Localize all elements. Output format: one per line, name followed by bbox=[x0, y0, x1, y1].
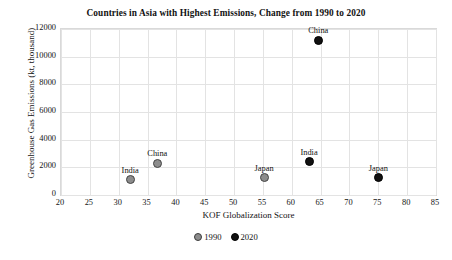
y-tick-label: 10000 bbox=[10, 52, 56, 60]
data-point[interactable] bbox=[126, 175, 135, 184]
gridline-vertical bbox=[61, 29, 62, 195]
x-tick-label: 70 bbox=[333, 198, 363, 208]
x-axis-title: KOF Globalization Score bbox=[60, 210, 437, 220]
x-tick-label: 65 bbox=[305, 198, 335, 208]
data-point[interactable] bbox=[153, 159, 162, 168]
data-point[interactable] bbox=[374, 173, 383, 182]
gridline-horizontal bbox=[61, 29, 436, 30]
gridline-horizontal bbox=[61, 57, 436, 58]
y-tick-label: 6000 bbox=[10, 107, 56, 115]
y-tick-label: 12000 bbox=[10, 24, 56, 32]
x-tick-label: 60 bbox=[276, 198, 306, 208]
legend-label: 2020 bbox=[241, 232, 258, 242]
legend-marker-icon bbox=[194, 233, 202, 241]
data-point[interactable] bbox=[260, 173, 269, 182]
gridline-vertical bbox=[205, 29, 206, 195]
x-tick-label: 30 bbox=[103, 198, 133, 208]
x-tick-label: 80 bbox=[391, 198, 421, 208]
legend-label: 1990 bbox=[204, 232, 221, 242]
gridline-vertical bbox=[176, 29, 177, 195]
gridline-horizontal bbox=[61, 195, 436, 196]
x-tick-label: 20 bbox=[45, 198, 75, 208]
chart-title: Countries in Asia with Highest Emissions… bbox=[0, 8, 452, 18]
data-point-label: China bbox=[288, 26, 348, 35]
y-axis-ticks: 020004000600080001000012000 bbox=[0, 28, 56, 196]
x-tick-label: 75 bbox=[362, 198, 392, 208]
y-tick-label: 2000 bbox=[10, 162, 56, 170]
x-tick-label: 55 bbox=[247, 198, 277, 208]
data-point[interactable] bbox=[314, 36, 323, 45]
x-tick-label: 35 bbox=[132, 198, 162, 208]
gridline-vertical bbox=[321, 29, 322, 195]
x-tick-label: 50 bbox=[218, 198, 248, 208]
legend-item-1990[interactable]: 1990 bbox=[194, 232, 221, 242]
plot-area: IndiaChinaJapanIndiaChinaJapan bbox=[60, 28, 437, 196]
x-tick-label: 40 bbox=[160, 198, 190, 208]
data-point-label: China bbox=[127, 149, 187, 158]
gridline-horizontal bbox=[61, 140, 436, 141]
gridline-vertical bbox=[436, 29, 437, 195]
scatter-chart: Countries in Asia with Highest Emissions… bbox=[0, 0, 452, 260]
chart-legend: 19902020 bbox=[0, 232, 452, 242]
data-point[interactable] bbox=[305, 157, 314, 166]
gridline-horizontal bbox=[61, 112, 436, 113]
gridline-horizontal bbox=[61, 84, 436, 85]
data-point-label: India bbox=[279, 148, 339, 157]
gridline-vertical bbox=[90, 29, 91, 195]
legend-item-2020[interactable]: 2020 bbox=[231, 232, 258, 242]
x-tick-label: 85 bbox=[420, 198, 450, 208]
y-tick-label: 4000 bbox=[10, 135, 56, 143]
legend-marker-icon bbox=[231, 233, 239, 241]
y-tick-label: 8000 bbox=[10, 79, 56, 87]
data-point-label: India bbox=[100, 166, 160, 175]
x-tick-label: 45 bbox=[189, 198, 219, 208]
data-point-label: Japan bbox=[234, 164, 294, 173]
x-tick-label: 25 bbox=[74, 198, 104, 208]
data-point-label: Japan bbox=[348, 164, 408, 173]
